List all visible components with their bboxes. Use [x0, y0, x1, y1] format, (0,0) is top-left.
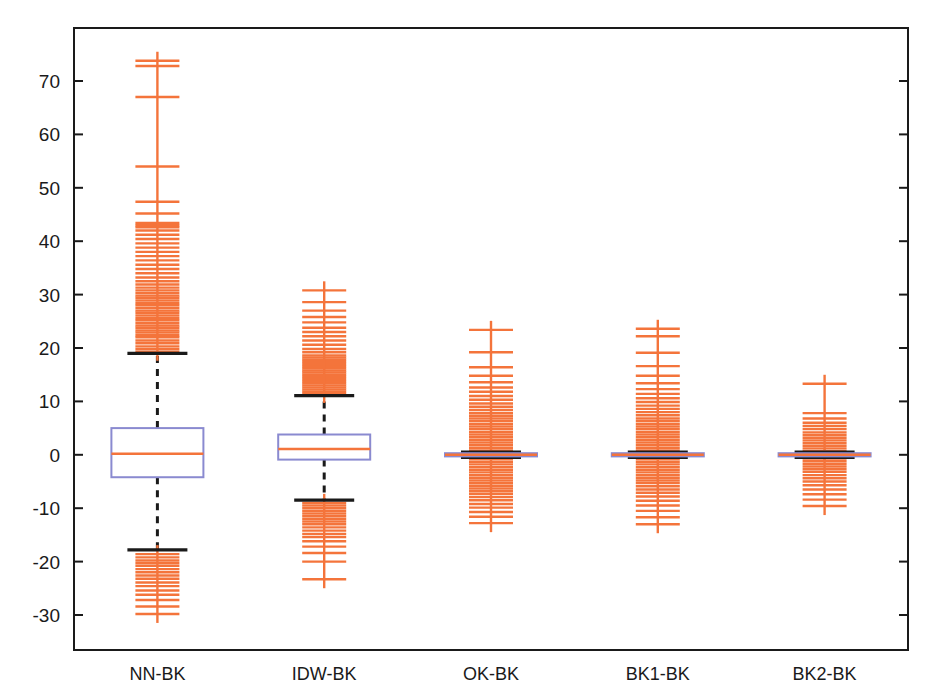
- y-axis-tick-label: 10: [39, 391, 60, 412]
- y-axis-tick-label: -20: [33, 552, 60, 573]
- y-axis-tick-label: 40: [39, 231, 60, 252]
- y-axis-tick-label: 20: [39, 338, 60, 359]
- y-axis-tick-label: 50: [39, 178, 60, 199]
- x-axis-category-label: NN-BK: [129, 664, 185, 684]
- x-axis-category-label: IDW-BK: [292, 664, 357, 684]
- y-axis-tick-label: 70: [39, 71, 60, 92]
- x-axis-category-label: BK2-BK: [793, 664, 857, 684]
- x-axis-category-label: OK-BK: [463, 664, 519, 684]
- y-axis-tick-label: 60: [39, 124, 60, 145]
- boxplot-figure: 706050403020100-10-20-30NN-BKIDW-BKOK-BK…: [0, 0, 933, 700]
- y-axis-tick-label: 0: [49, 445, 60, 466]
- y-axis-tick-label: -10: [33, 498, 60, 519]
- y-axis-tick-label: -30: [33, 605, 60, 626]
- x-axis-category-label: BK1-BK: [626, 664, 690, 684]
- y-axis-tick-label: 30: [39, 285, 60, 306]
- boxplot-canvas: 706050403020100-10-20-30NN-BKIDW-BKOK-BK…: [0, 0, 933, 700]
